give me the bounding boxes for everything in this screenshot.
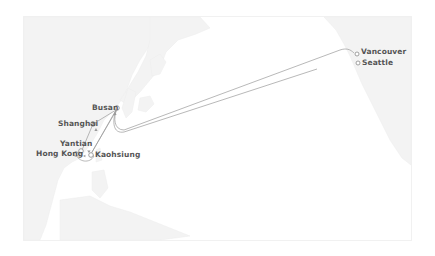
port-circle-icon[interactable] [356, 61, 360, 65]
port-circle-icon[interactable] [89, 153, 94, 158]
landmass-north-america [324, 17, 411, 165]
landmass-asia [24, 17, 210, 240]
port-label-vancouver: Vancouver [361, 48, 406, 56]
port-circle-icon[interactable] [355, 52, 359, 56]
arrow-icon [83, 155, 85, 157]
port-label-yantian: Yantian [60, 140, 92, 148]
route-map [0, 0, 435, 256]
port-label-hong-kong: Hong Kong [36, 150, 83, 158]
port-label-kaohsiung: Kaohsiung [95, 151, 140, 159]
port-label-seattle: Seattle [362, 59, 393, 67]
port-label-busan: Busan [92, 104, 118, 112]
port-label-shanghai: Shanghai [58, 120, 98, 128]
